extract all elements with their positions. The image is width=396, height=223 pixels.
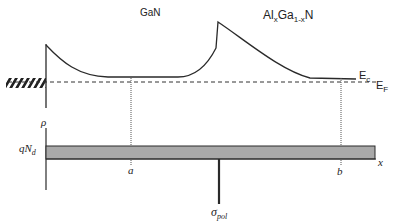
svg-text:σpol: σpol (211, 205, 228, 221)
diagram-canvas: GaN AlxGa1-xN Ec EF ρ qNd a b x σpol (0, 0, 396, 223)
svg-text:qNd: qNd (19, 142, 37, 157)
conduction-band-edge (46, 22, 356, 79)
metal-contact-hatch (6, 78, 46, 88)
band-diagram: GaN AlxGa1-xN Ec EF ρ qNd a b x σpol (0, 0, 396, 223)
rho-label: ρ (40, 116, 46, 128)
sigma-pol-label: σpol (211, 205, 228, 221)
b-label: b (337, 165, 343, 177)
qnd-label: qNd (19, 142, 37, 157)
donor-charge-band (46, 146, 375, 159)
svg-text:AlxGa1-xN: AlxGa1-xN (263, 8, 313, 24)
gan-label: GaN (140, 7, 161, 18)
a-label: a (128, 164, 134, 176)
ef-label: EF (376, 79, 388, 94)
svg-text:EF: EF (376, 79, 388, 94)
algan-label: AlxGa1-xN (263, 8, 313, 24)
x-axis-label: x (377, 156, 383, 168)
